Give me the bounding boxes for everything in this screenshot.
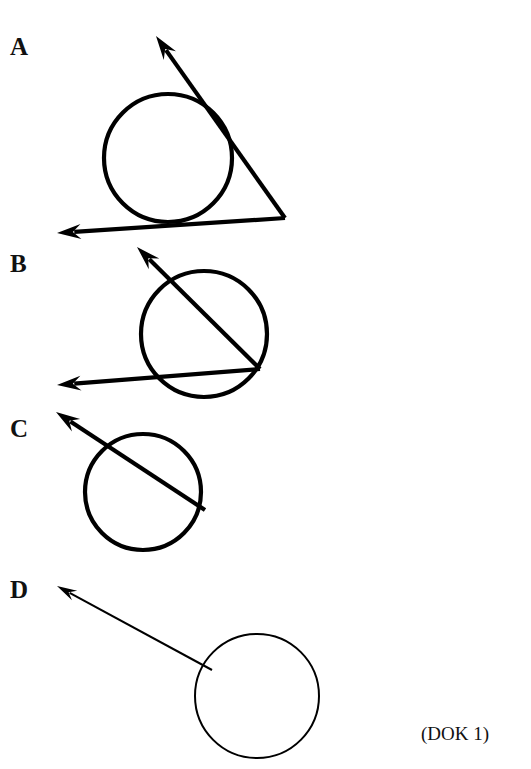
circle-b xyxy=(141,271,267,397)
geometry-figure: ABCD(DOK 1) xyxy=(0,0,531,769)
option-label-d: D xyxy=(10,576,28,603)
external-ray xyxy=(70,593,212,670)
circle-d xyxy=(195,634,319,758)
upper-secant-ray xyxy=(149,259,260,369)
upper-tangent-ray-arrowhead xyxy=(156,36,176,60)
option-label-a: A xyxy=(10,33,28,60)
circle-c xyxy=(85,434,201,550)
dok-caption: (DOK 1) xyxy=(421,723,489,745)
option-label-c: C xyxy=(10,415,28,442)
diagram-option-d: D xyxy=(10,576,319,758)
external-ray-arrowhead xyxy=(57,586,77,600)
option-label-b: B xyxy=(10,250,27,277)
diagram-option-c: C xyxy=(10,412,205,550)
secant-ray-arrowhead xyxy=(56,412,80,431)
lower-secant-ray xyxy=(74,369,260,384)
figure-page: ABCD(DOK 1) xyxy=(0,0,531,769)
circle-a xyxy=(104,94,232,222)
diagram-option-a: A xyxy=(10,33,285,239)
diagram-option-b: B xyxy=(10,247,267,397)
